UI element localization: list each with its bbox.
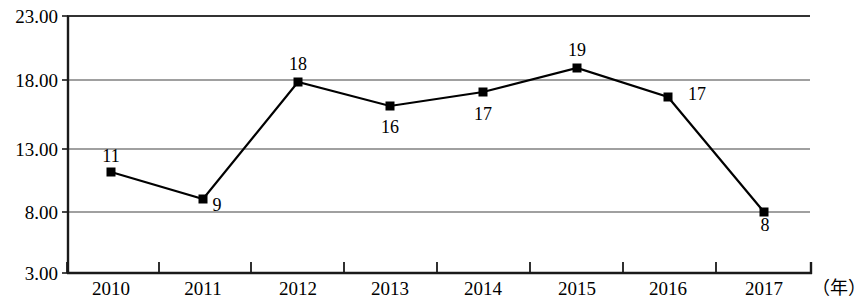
xtick-label-2011: 2011 (160, 279, 246, 298)
ytick-label-23: 23.00 (0, 7, 58, 26)
data-marker (573, 64, 582, 73)
data-label-2015: 19 (555, 41, 599, 59)
data-label-2014: 17 (461, 105, 505, 123)
data-marker (479, 88, 488, 97)
data-label-2010: 11 (89, 147, 133, 165)
line-chart: 23.00 18.00 13.00 8.00 3.00 2010 2011 20… (0, 0, 865, 303)
data-label-2012: 18 (276, 55, 320, 73)
xtick-label-2012: 2012 (255, 279, 341, 298)
data-label-2017: 8 (752, 216, 778, 234)
ytick-label-8: 8.00 (0, 203, 58, 222)
xtick-label-2016: 2016 (625, 279, 711, 298)
xtick-label-2014: 2014 (440, 279, 526, 298)
data-marker (294, 78, 303, 87)
ytick-label-13: 13.00 (0, 140, 58, 159)
xtick-label-2010: 2010 (68, 279, 154, 298)
x-axis-ticks (67, 262, 716, 273)
xtick-label-2017: 2017 (721, 279, 807, 298)
data-markers (107, 64, 769, 217)
plot-frame (67, 16, 812, 274)
data-label-2011: 9 (204, 196, 230, 214)
xtick-label-2015: 2015 (534, 279, 620, 298)
ytick-label-18: 18.00 (0, 71, 58, 90)
data-marker (107, 168, 116, 177)
xtick-label-2013: 2013 (347, 279, 433, 298)
ytick-label-3: 3.00 (0, 264, 58, 283)
x-axis-unit-label: （年） (812, 279, 865, 297)
data-series-line (111, 68, 764, 212)
data-label-2016: 17 (675, 85, 719, 103)
data-label-2013: 16 (368, 118, 412, 136)
data-marker (664, 93, 673, 102)
data-marker (386, 102, 395, 111)
